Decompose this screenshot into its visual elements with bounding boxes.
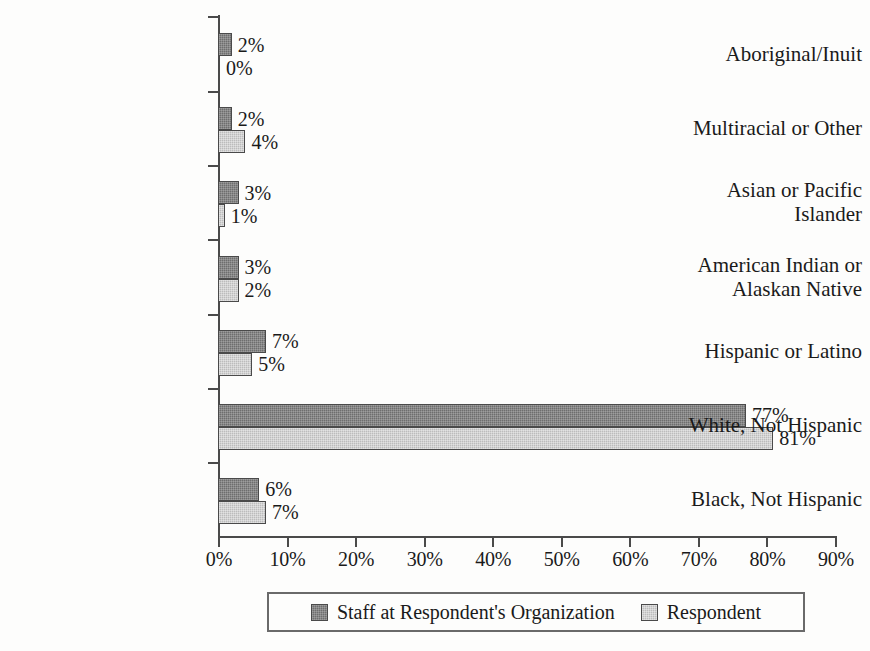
bar-respondent — [218, 204, 225, 227]
bar-value-label: 2% — [245, 280, 272, 300]
bar-staff — [218, 330, 266, 353]
y-axis-tick — [208, 314, 218, 316]
y-axis-tick — [208, 462, 218, 464]
chart-legend: Staff at Respondent's OrganizationRespon… — [267, 592, 805, 632]
bar-respondent — [218, 501, 266, 524]
legend-item: Respondent — [641, 602, 761, 622]
x-axis-tick — [629, 536, 631, 547]
y-axis-tick — [208, 165, 218, 167]
category-label-line: American Indian or — [664, 253, 862, 277]
x-axis-tick-label: 20% — [321, 548, 391, 571]
x-axis-tick-label: 40% — [458, 548, 528, 571]
x-axis-tick — [355, 536, 357, 547]
x-axis-line — [218, 536, 837, 538]
bar-value-label: 4% — [251, 132, 278, 152]
bar-respondent — [218, 279, 239, 302]
bar-value-label: 5% — [258, 354, 285, 374]
x-axis-tick-label: 0% — [184, 548, 254, 571]
category-label-line: Islander — [664, 202, 862, 226]
legend-label: Respondent — [667, 602, 761, 622]
category-label-line: Black, Not Hispanic — [664, 487, 862, 511]
y-axis-tick — [208, 388, 218, 390]
y-axis-category-label: American Indian orAlaskan Native — [664, 253, 870, 301]
x-axis-tick — [766, 536, 768, 547]
x-axis-tick-label: 90% — [801, 548, 870, 571]
x-axis-tick — [561, 536, 563, 547]
y-axis-tick — [208, 91, 218, 93]
x-axis-tick — [698, 536, 700, 547]
x-axis-tick-label: 10% — [253, 548, 323, 571]
x-axis-tick — [287, 536, 289, 547]
bar-staff — [218, 107, 232, 130]
bar-staff — [218, 478, 259, 501]
legend-item: Staff at Respondent's Organization — [311, 602, 615, 622]
bar-value-label: 2% — [238, 109, 265, 129]
y-axis-category-label: Asian or PacificIslander — [664, 178, 870, 226]
bar-staff — [218, 33, 232, 56]
category-label-line: Asian or Pacific — [664, 178, 862, 202]
bar-value-label: 0% — [226, 58, 253, 78]
y-axis-tick — [208, 239, 218, 241]
category-label-line: Aboriginal/Inuit — [664, 42, 862, 66]
bar-value-label: 2% — [238, 35, 265, 55]
bar-value-label: 7% — [272, 502, 299, 522]
bar-value-label: 7% — [272, 331, 299, 351]
x-axis-tick — [218, 536, 220, 547]
category-label-line: Hispanic or Latino — [664, 339, 862, 363]
bar-staff — [218, 256, 239, 279]
y-axis-category-label: Multiracial or Other — [664, 116, 870, 140]
y-axis-category-label: Aboriginal/Inuit — [664, 42, 870, 66]
x-axis-tick-label: 50% — [527, 548, 597, 571]
x-axis-tick-label: 60% — [595, 548, 665, 571]
y-axis-category-label: Hispanic or Latino — [664, 339, 870, 363]
category-label-line: Multiracial or Other — [664, 116, 862, 140]
bar-respondent — [218, 353, 252, 376]
legend-swatch — [311, 604, 328, 621]
category-label-line: Alaskan Native — [664, 277, 862, 301]
legend-swatch — [641, 604, 658, 621]
legend-label: Staff at Respondent's Organization — [337, 602, 615, 622]
category-label-line: White, Not Hispanic — [664, 413, 862, 437]
bar-chart: 2%0%2%4%3%1%3%2%7%5%77%81%6%7% Aborigina… — [0, 0, 870, 651]
x-axis-tick-label: 30% — [390, 548, 460, 571]
bar-value-label: 6% — [265, 479, 292, 499]
bar-value-label: 3% — [245, 183, 272, 203]
bar-value-label: 3% — [245, 257, 272, 277]
y-axis-category-label: White, Not Hispanic — [664, 413, 870, 437]
y-axis-category-label: Black, Not Hispanic — [664, 487, 870, 511]
cropped-title-artifact — [0, 0, 870, 8]
x-axis-tick — [492, 536, 494, 547]
x-axis-tick-label: 80% — [732, 548, 802, 571]
x-axis-tick — [835, 536, 837, 547]
bar-respondent — [218, 130, 245, 153]
bar-staff — [218, 181, 239, 204]
x-axis-tick-label: 70% — [664, 548, 734, 571]
bar-value-label: 1% — [231, 206, 258, 226]
x-axis-tick — [424, 536, 426, 547]
